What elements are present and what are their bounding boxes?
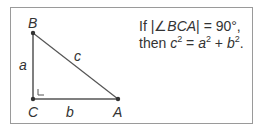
side-c-line — [33, 33, 118, 99]
statement-line-1: If |∠BCA| = 90°, — [139, 18, 244, 35]
var-a: a — [198, 35, 206, 51]
statement-line-2: then c2 = a2 + b2. — [139, 35, 244, 52]
vertex-b-label: B — [28, 15, 37, 31]
angle-name: BCA — [167, 18, 196, 34]
var-b: b — [227, 35, 235, 51]
vertex-c-label: C — [28, 104, 39, 120]
angle-value: | = 90°, — [196, 18, 241, 34]
plus-sign: + — [211, 35, 227, 51]
vertex-a-point — [116, 97, 120, 101]
then-text: then — [139, 35, 170, 51]
vertex-c-point — [31, 97, 35, 101]
vertex-b-point — [31, 31, 35, 35]
side-c-label: c — [74, 48, 81, 64]
pythagorean-statement: If |∠BCA| = 90°, then c2 = a2 + b2. — [139, 18, 244, 52]
vertex-a-label: A — [112, 104, 122, 120]
equals-sign: = — [182, 35, 198, 51]
right-angle-marker — [38, 89, 44, 95]
side-b-label: b — [66, 104, 74, 120]
statement-prefix: If |∠ — [139, 18, 167, 34]
period: . — [240, 35, 244, 51]
side-a-label: a — [19, 57, 27, 73]
